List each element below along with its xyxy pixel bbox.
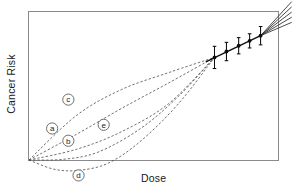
callout-c: c bbox=[63, 94, 74, 105]
curve-d bbox=[29, 57, 215, 170]
data-point-2 bbox=[225, 50, 229, 54]
curve-callout-badges: abcde bbox=[47, 94, 110, 181]
callout-a: a bbox=[47, 123, 58, 134]
callout-b: b bbox=[63, 135, 74, 146]
y-axis-label: Cancer Risk bbox=[5, 54, 17, 114]
data-point-4 bbox=[248, 39, 252, 43]
dose-response-chart: abcde Dose Cancer Risk bbox=[0, 0, 298, 193]
callout-e: e bbox=[98, 119, 109, 130]
high-dose-fan-lines bbox=[261, 2, 292, 36]
callout-label-b: b bbox=[66, 137, 71, 146]
data-point-1 bbox=[213, 56, 217, 60]
extrapolation-curves bbox=[29, 57, 215, 170]
fan-line-5 bbox=[261, 2, 292, 36]
callout-label-c: c bbox=[66, 95, 70, 104]
data-point-3 bbox=[237, 44, 241, 48]
fan-line-2 bbox=[261, 17, 292, 36]
data-point-5 bbox=[259, 34, 263, 38]
callout-label-a: a bbox=[50, 124, 55, 133]
fan-line-3 bbox=[261, 12, 292, 36]
callout-d: d bbox=[73, 170, 84, 181]
chart-canvas: abcde bbox=[0, 0, 298, 193]
callout-label-e: e bbox=[101, 121, 106, 130]
x-axis-label: Dose bbox=[141, 172, 166, 184]
curve-a bbox=[29, 57, 215, 160]
callout-label-d: d bbox=[76, 171, 80, 180]
